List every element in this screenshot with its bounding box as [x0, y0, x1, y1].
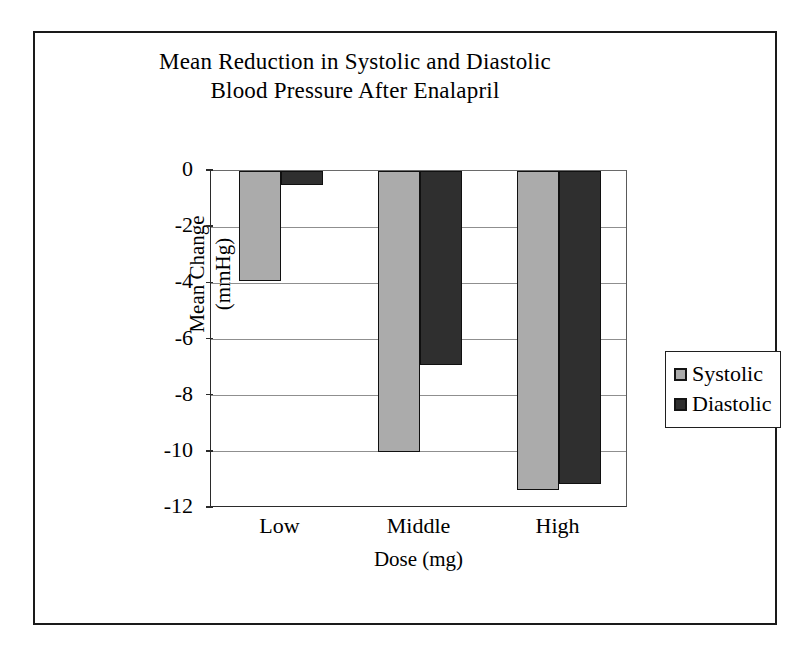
y-axis-tick-label: -2	[141, 214, 193, 236]
legend-swatch-systolic-icon	[674, 368, 687, 381]
y-axis-tick-label: -10	[141, 439, 193, 461]
legend-item-systolic: Systolic	[674, 359, 771, 389]
plot-area	[210, 170, 627, 507]
chart-legend: SystolicDiastolic	[665, 351, 781, 428]
bar-middle-diastolic	[420, 171, 462, 365]
y-axis-tick-label: -12	[141, 495, 193, 517]
legend-label-diastolic: Diastolic	[692, 393, 771, 415]
y-axis-tick-mark	[206, 450, 213, 452]
y-axis-tick-mark	[206, 169, 213, 171]
y-axis-tick-label: 0	[141, 158, 193, 180]
chart-title-line-1: Mean Reduction in Systolic and Diastolic	[35, 47, 675, 76]
legend-label-systolic: Systolic	[692, 363, 763, 385]
y-axis-tick-label: -8	[141, 383, 193, 405]
bar-low-diastolic	[281, 171, 323, 185]
y-axis-tick-mark	[206, 394, 213, 396]
bar-middle-systolic	[378, 171, 420, 452]
chart-title: Mean Reduction in Systolic and Diastolic…	[35, 47, 675, 105]
y-axis-tick-mark	[206, 338, 213, 340]
bar-high-systolic	[517, 171, 559, 490]
x-axis-tick-label-low: Low	[210, 513, 350, 539]
bar-high-diastolic	[559, 171, 601, 484]
y-axis-tick-mark	[206, 282, 213, 284]
x-axis-title: Dose (mg)	[210, 547, 627, 572]
figure-frame: Mean Reduction in Systolic and Diastolic…	[33, 31, 777, 625]
legend-swatch-diastolic-icon	[674, 398, 687, 411]
y-axis-tick-mark	[206, 506, 213, 508]
y-axis-tick-label: -4	[141, 270, 193, 292]
legend-item-diastolic: Diastolic	[674, 389, 771, 419]
y-axis-tick-mark	[206, 225, 213, 227]
x-axis-tick-label-middle: Middle	[349, 513, 489, 539]
bar-low-systolic	[239, 171, 281, 281]
chart-title-line-2: Blood Pressure After Enalapril	[35, 76, 675, 105]
y-axis-tick-label: -6	[141, 327, 193, 349]
x-axis-tick-label-high: High	[488, 513, 628, 539]
